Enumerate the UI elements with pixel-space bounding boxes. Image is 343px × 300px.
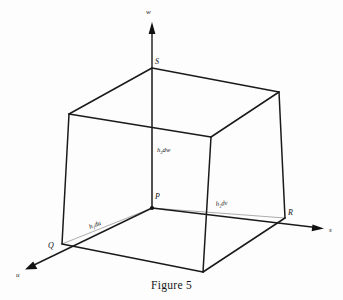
element-label-h2dv: h2dv (215, 199, 228, 209)
cube-edge-vertical-middle (203, 137, 211, 272)
element-edge-p-to-q (62, 208, 152, 244)
elem-label-h1du-rest: du (93, 219, 102, 228)
figure-container: S P Q R w s u h3dw h2dv h1du Figure 5 (0, 0, 343, 300)
axis-group (25, 22, 324, 270)
axis-label-s: s (329, 226, 332, 234)
point-marker-p (150, 206, 154, 210)
axis-arrow-s (312, 224, 324, 231)
axis-line-u (34, 208, 152, 265)
elem-label-h2dv-rest: dv (221, 199, 228, 207)
cube-edge-vertical-left (62, 114, 69, 244)
cube-edge-top-rear-right (152, 68, 279, 92)
cube-edge-top-front-right (211, 92, 279, 137)
cube-edge-top-front-left (69, 114, 211, 137)
axis-label-u: u (16, 271, 20, 279)
point-label-P: P (154, 192, 160, 201)
volume-element-diagram: S P Q R w s u h3dw h2dv h1du (0, 0, 343, 300)
point-label-w-axis-S: S (155, 57, 159, 66)
point-label-R: R (287, 208, 293, 217)
element-label-h3dw: h3dw (157, 146, 171, 155)
axis-label-w: w (146, 8, 151, 16)
cube-edge-vertical-right (279, 92, 285, 218)
cube-edge-top-left-rear (69, 68, 152, 114)
cube-edge-bottom-left (62, 244, 203, 272)
svg-text:h2dv: h2dv (215, 199, 228, 209)
axis-arrow-w (149, 22, 156, 34)
cube-edge-bottom-right (203, 218, 285, 272)
element-edge-group (62, 68, 285, 244)
figure-caption: Figure 5 (0, 279, 343, 291)
svg-text:h3dw: h3dw (157, 146, 171, 155)
cube-edge-group (62, 68, 285, 272)
elem-label-h3dw-rest: dw (163, 146, 171, 153)
svg-text:h1du: h1du (88, 219, 103, 232)
element-label-h1du: h1du (88, 219, 103, 232)
point-label-Q: Q (48, 241, 54, 250)
axis-arrow-u (25, 262, 37, 270)
